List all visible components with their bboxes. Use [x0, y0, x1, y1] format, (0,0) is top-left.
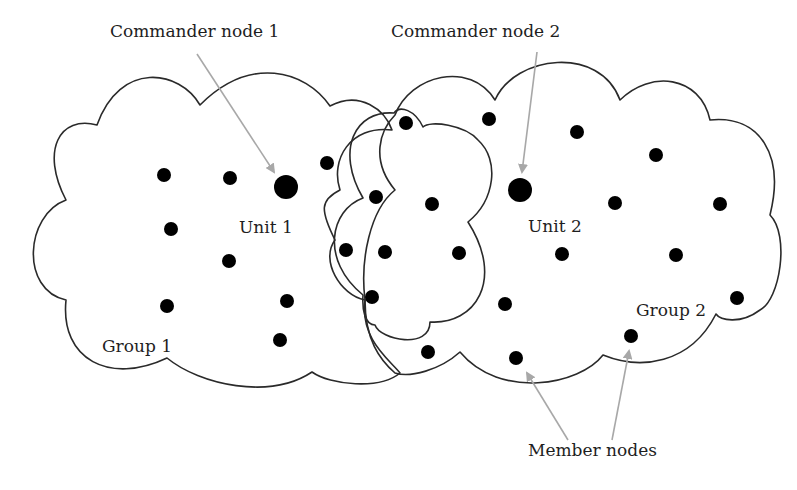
commander-node-2-label: Commander node 2	[391, 21, 560, 41]
member-node	[320, 156, 334, 170]
member-node	[570, 125, 584, 139]
commander-node-1-label: Commander node 1	[110, 21, 279, 41]
member-node	[223, 171, 237, 185]
unit-1-label: Unit 1	[239, 217, 293, 237]
member-node	[555, 247, 569, 261]
member-node	[482, 112, 496, 126]
group-2-member-nodes	[482, 112, 744, 365]
member-node-arrow-1	[527, 373, 568, 440]
member-node	[339, 243, 353, 257]
diagram-canvas: Commander node 1 Commander node 2 Unit 1…	[0, 0, 797, 490]
member-node	[649, 148, 663, 162]
member-node	[280, 294, 294, 308]
member-node	[157, 168, 171, 182]
member-node	[498, 297, 512, 311]
overlap-subgroup-cloud	[334, 109, 491, 339]
overlap-member-nodes	[339, 116, 466, 359]
member-node	[399, 116, 413, 130]
member-nodes-label: Member nodes	[528, 440, 657, 460]
member-node-516-358	[509, 351, 523, 365]
member-node	[730, 291, 744, 305]
member-node	[164, 222, 178, 236]
unit-2-label: Unit 2	[528, 216, 582, 236]
member-node	[608, 196, 622, 210]
member-node	[160, 299, 174, 313]
group-1-cloud	[33, 73, 400, 387]
member-node	[669, 248, 683, 262]
member-node	[222, 254, 236, 268]
group-1-member-nodes	[157, 156, 334, 347]
member-node-631-336	[624, 329, 638, 343]
commander-1-arrow	[197, 54, 274, 172]
member-node	[713, 197, 727, 211]
member-node	[365, 290, 379, 304]
member-node	[452, 246, 466, 260]
member-node	[273, 333, 287, 347]
member-node-arrow-2	[612, 351, 629, 440]
member-node	[425, 197, 439, 211]
member-node	[421, 345, 435, 359]
commander-node-2	[508, 178, 532, 202]
member-node	[378, 245, 392, 259]
member-node	[369, 190, 383, 204]
commander-2-arrow	[522, 52, 537, 172]
commander-node-1	[274, 175, 298, 199]
network-diagram: Commander node 1 Commander node 2 Unit 1…	[0, 0, 797, 490]
group-2-label: Group 2	[636, 300, 706, 320]
group-1-label: Group 1	[102, 336, 172, 356]
